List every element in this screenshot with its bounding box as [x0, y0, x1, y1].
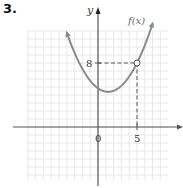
- x-tick-label: 5: [134, 133, 140, 144]
- y-tick-label: 8: [86, 58, 92, 69]
- function-graph: y f(x) 058: [0, 0, 183, 188]
- x-tick-label: 0: [95, 133, 101, 144]
- curve-label: f(x): [127, 15, 145, 26]
- open-circle-point: [134, 60, 140, 66]
- parabola-curve: [67, 23, 153, 91]
- y-axis-label: y: [86, 4, 94, 17]
